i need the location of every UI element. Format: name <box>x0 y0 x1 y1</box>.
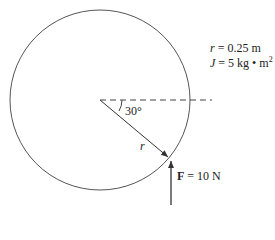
radius-label: r <box>140 140 145 152</box>
J-exponent: 2 <box>269 55 273 64</box>
angle-label: 30° <box>125 105 142 117</box>
inertia-param-label: J = 5 kg • m2 <box>210 56 273 69</box>
force-value: = 10 N <box>184 169 220 183</box>
force-label: F = 10 N <box>177 170 221 182</box>
r-value: = 0.25 m <box>215 41 261 55</box>
radius-param-label: r = 0.25 m <box>210 42 261 54</box>
angle-arc <box>119 100 122 111</box>
J-value: = 5 kg • m <box>215 56 268 70</box>
